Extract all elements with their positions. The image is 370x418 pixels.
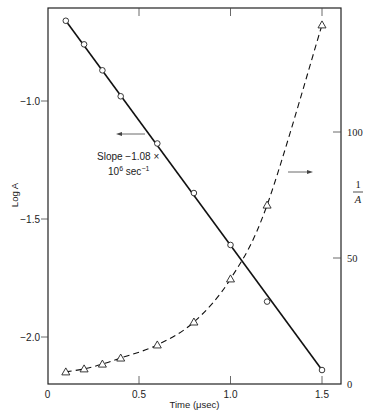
y-right-axis-label-numerator: 1 bbox=[355, 179, 360, 190]
x-tick-label: 1.0 bbox=[224, 389, 238, 400]
slope-unit: sec bbox=[123, 166, 141, 177]
y-left-tick-label: −1.5 bbox=[20, 214, 40, 225]
log-a-point bbox=[100, 68, 106, 74]
y-right-tick-label: 50 bbox=[347, 253, 358, 264]
x-tick-label: 0 bbox=[45, 389, 51, 400]
y-left-axis-label: Log A bbox=[9, 182, 20, 207]
x-tick-label: 0.5 bbox=[132, 389, 146, 400]
x-axis-label: Time (μsec) bbox=[170, 399, 220, 410]
y-right-tick-label: 0 bbox=[347, 379, 352, 390]
log-a-point bbox=[191, 190, 197, 196]
y-left-tick-label: −2.0 bbox=[20, 332, 40, 343]
slope-unit-exponent: −1 bbox=[141, 165, 149, 172]
axis-ticks: 00.51.01.5−1.0−1.5−2.0050100 bbox=[20, 8, 363, 400]
chart: 00.51.01.5−1.0−1.5−2.0050100 Time (μsec)… bbox=[0, 0, 370, 418]
inverse-a-point bbox=[227, 275, 235, 282]
x-tick-label: 1.5 bbox=[315, 389, 329, 400]
log-a-point bbox=[319, 367, 325, 373]
log-a-point bbox=[118, 93, 124, 99]
log-a-point bbox=[81, 42, 87, 48]
slope-base: 10 bbox=[108, 166, 120, 177]
right-arrow-head bbox=[307, 170, 313, 174]
y-right-tick-label: 100 bbox=[347, 127, 363, 138]
log-a-point bbox=[264, 299, 270, 305]
log-a-point bbox=[155, 141, 161, 147]
y-right-axis-label-denominator: A bbox=[354, 194, 362, 205]
log-a-point bbox=[63, 18, 69, 24]
slope-annotation-line2: 106 sec−1 bbox=[108, 165, 149, 177]
inverse-a-point bbox=[318, 21, 326, 28]
log-a-point bbox=[228, 242, 234, 248]
left-arrow-head bbox=[116, 132, 122, 136]
inverse-a-point bbox=[263, 201, 271, 208]
y-left-tick-label: −1.0 bbox=[20, 96, 40, 107]
slope-annotation-line1: Slope −1.08 × bbox=[97, 151, 159, 162]
inverse-a-point bbox=[153, 341, 161, 348]
inverse-a-point bbox=[117, 354, 125, 361]
